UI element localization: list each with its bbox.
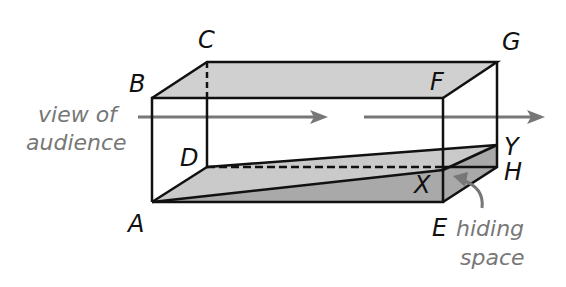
view-of-audience-label-line1: view of [38,102,120,127]
view-of-audience-arrow [138,110,545,124]
vertex-label-f: F [430,68,445,96]
hiding-space-label-line1: hiding [456,216,524,241]
hiding-space-label-line2: space [460,245,525,270]
view-of-audience-label-line2: audience [26,130,127,155]
vertex-label-b: B [129,70,145,98]
vertex-label-x: X [412,171,431,199]
vertex-label-y: Y [504,133,521,161]
vertex-label-a: A [126,210,144,238]
vertex-label-g: G [502,28,521,56]
vertex-label-c: C [198,26,215,54]
vertex-label-e: E [432,214,448,242]
vertex-label-d: D [180,144,198,172]
vertex-label-h: H [504,158,522,186]
diagram-canvas: A B C D E F G H X Y view of audience hid… [0,0,566,287]
prism-diagram: A B C D E F G H X Y view of audience hid… [0,0,566,287]
top-face [152,62,497,98]
